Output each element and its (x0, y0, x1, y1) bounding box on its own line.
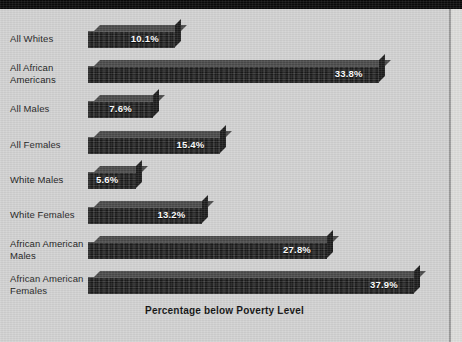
bar-value-label: 27.8% (283, 244, 311, 255)
chart-row: All Whites10.1% (0, 25, 449, 49)
chart-row: White Males5.6% (0, 166, 449, 190)
chart-row: All AfricanAmericans33.8% (0, 60, 449, 84)
bar-end-cap (379, 54, 385, 82)
bar-value-label: 33.8% (335, 68, 363, 79)
bar-end-cap (175, 19, 181, 47)
chart-row: African AmericanFemales37.9% (0, 271, 449, 295)
bar: 37.9% (88, 271, 414, 293)
poverty-bar-chart: All Whites10.1%All AfricanAmericans33.8%… (0, 0, 462, 342)
category-label-line2: Females (10, 285, 88, 297)
category-label-line2: Males (10, 250, 88, 262)
bar-value-label: 5.6% (96, 174, 118, 185)
bar-value-label: 13.2% (158, 209, 186, 220)
bar: 13.2% (88, 201, 202, 223)
category-label: All AfricanAmericans (10, 62, 88, 85)
category-label: African AmericanFemales (10, 273, 88, 296)
chart-row: African AmericanMales27.8% (0, 236, 449, 260)
bar: 15.4% (88, 131, 220, 153)
bar-front-face (88, 277, 414, 294)
category-label: White Males (10, 174, 88, 186)
top-border-band (0, 0, 462, 9)
bar-end-cap (327, 230, 333, 258)
bar: 27.8% (88, 236, 327, 258)
bar-end-cap (414, 265, 420, 293)
category-label-line1: African American (10, 238, 88, 250)
chart-row: All Males7.6% (0, 95, 449, 119)
bar-end-cap (153, 89, 159, 117)
bar: 10.1% (88, 25, 175, 47)
plot-area: All Whites10.1%All AfricanAmericans33.8%… (0, 9, 449, 342)
category-label: All Females (10, 139, 88, 151)
right-margin-strip (451, 9, 462, 342)
right-border-rule (449, 9, 451, 342)
bar-value-label: 15.4% (176, 139, 204, 150)
bar-end-cap (220, 125, 226, 153)
category-label: African AmericanMales (10, 238, 88, 261)
category-label-line1: All Males (10, 103, 88, 115)
bar-end-cap (202, 195, 208, 223)
category-label-line1: White Females (10, 209, 88, 221)
category-label: All Whites (10, 33, 88, 45)
category-label: All Males (10, 103, 88, 115)
bar-value-label: 10.1% (131, 33, 159, 44)
category-label-line1: All African (10, 62, 88, 74)
chart-row: All Females15.4% (0, 131, 449, 155)
category-label-line1: African American (10, 273, 88, 285)
bar-end-cap (136, 160, 142, 188)
category-label-line1: All Whites (10, 33, 88, 45)
bar: 33.8% (88, 60, 379, 82)
category-label-line1: White Males (10, 174, 88, 186)
bar-value-label: 7.6% (109, 103, 131, 114)
category-label: White Females (10, 209, 88, 221)
category-label-line2: Americans (10, 74, 88, 86)
x-axis-title: Percentage below Poverty Level (0, 305, 449, 316)
category-label-line1: All Females (10, 139, 88, 151)
bar: 7.6% (88, 95, 153, 117)
bar: 5.6% (88, 166, 136, 188)
bar-value-label: 37.9% (370, 279, 398, 290)
chart-row: White Females13.2% (0, 201, 449, 225)
